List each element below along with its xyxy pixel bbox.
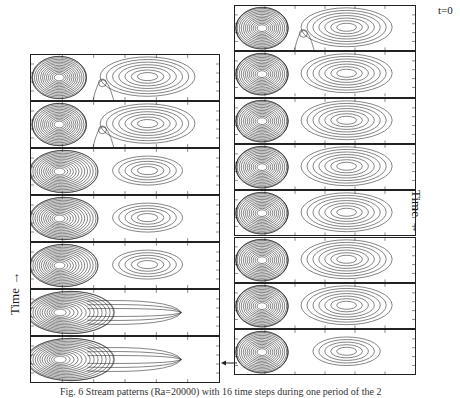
time-axis-label-right: Time →: [408, 190, 424, 250]
contour-panel: [30, 101, 220, 148]
contour-panel: [30, 148, 220, 195]
column-connector-arrow-icon: [221, 358, 237, 368]
contour-panel: [30, 336, 220, 383]
contour-panel: [30, 289, 220, 336]
t0-label: t=0: [438, 4, 453, 16]
contour-panel: [234, 5, 416, 51]
figure-caption: Fig. 6 Stream patterns (Ra=20000) with 1…: [60, 386, 381, 397]
time-axis-label-left: Time →: [7, 245, 23, 315]
contour-panel: [234, 144, 416, 190]
contour-panel: [30, 54, 220, 101]
contour-panel: [234, 98, 416, 144]
contour-panel: [234, 237, 416, 283]
contour-panel: [234, 190, 416, 236]
contour-panel: [234, 51, 416, 97]
contour-panel: [234, 283, 416, 329]
contour-panel: [30, 195, 220, 242]
contour-panel: [234, 329, 416, 375]
contour-panel: [30, 242, 220, 289]
